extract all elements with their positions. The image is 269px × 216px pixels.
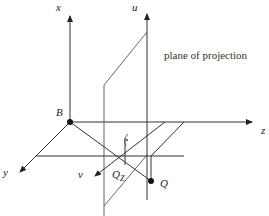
plane-left-edge bbox=[104, 32, 147, 216]
z-axis-label: z bbox=[260, 124, 266, 136]
v-axis-label: v bbox=[78, 168, 83, 180]
point-q-label: Q bbox=[160, 177, 168, 189]
y-axis-label: y bbox=[2, 166, 8, 178]
x-axis-label: x bbox=[55, 1, 61, 13]
origin-point-b bbox=[67, 119, 73, 125]
u-axis-label: u bbox=[132, 1, 138, 13]
projection-diagram: x u z y v B Q QZ plane of projection bbox=[0, 0, 269, 216]
y-axis bbox=[20, 122, 70, 172]
point-qz-label: QZ bbox=[112, 168, 125, 183]
point-q bbox=[148, 178, 154, 184]
right-angle-dot bbox=[126, 139, 128, 141]
floor-right-edge bbox=[151, 122, 184, 156]
origin-label: B bbox=[56, 106, 63, 118]
plane-of-projection-caption: plane of projection bbox=[164, 49, 248, 61]
v-axis bbox=[95, 122, 165, 176]
